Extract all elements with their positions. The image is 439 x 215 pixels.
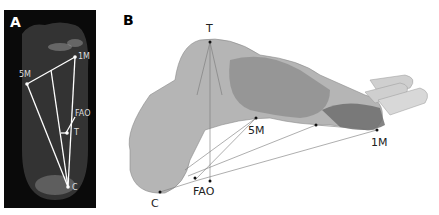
panel-a-label: A — [10, 14, 21, 30]
b-label-5m: 5M — [248, 124, 265, 137]
a-label-1m: 1M — [78, 52, 90, 61]
b-label-fao: FAO — [193, 185, 214, 198]
figure-graphics — [0, 0, 439, 215]
a-label-fao: FAO — [75, 109, 91, 118]
panel-b-label: B — [123, 12, 134, 28]
a-label-t: T — [74, 128, 79, 137]
panel-b-bones — [129, 39, 427, 193]
a-label-5m: 5M — [19, 70, 31, 79]
a-label-c: C — [72, 183, 78, 192]
b-label-t: T — [206, 22, 213, 35]
b-label-c: C — [151, 197, 159, 210]
b-label-1m: 1M — [371, 136, 388, 149]
